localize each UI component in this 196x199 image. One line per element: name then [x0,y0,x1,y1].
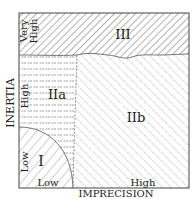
y-tick-very-line2: High [28,18,39,43]
y-tick-low: Low [19,151,30,173]
y-axis-label: INERTIA [4,77,17,128]
y-tick-high: High [19,83,30,108]
x-axis-label: IMPRECISION [78,188,153,199]
region-label-III: III [115,27,130,42]
region-label-IIa: IIa [48,87,66,102]
x-tick-low: Low [37,177,59,188]
x-tick-high: High [131,177,156,188]
region-label-IIb: IIb [127,110,146,125]
region-label-I: I [38,153,44,169]
regions-diagram: III IIa IIb I INERTIA Low High Very High… [0,0,196,199]
